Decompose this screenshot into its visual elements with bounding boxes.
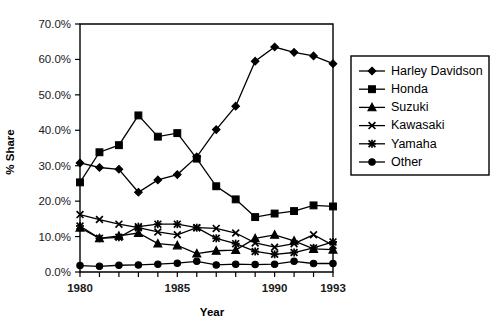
data-point-asterisk-marker — [310, 244, 318, 252]
legend-item-label: Harley Davidson — [391, 64, 483, 78]
y-axis-title: % Share — [4, 129, 16, 174]
data-point-square-marker — [252, 214, 259, 221]
data-point-circle-marker — [135, 262, 141, 268]
data-point-asterisk-marker — [173, 220, 181, 228]
y-tick-label: 10.0% — [38, 231, 71, 243]
data-point-asterisk-marker — [329, 238, 337, 246]
series-honda — [77, 112, 337, 220]
data-point-circle-marker — [116, 262, 122, 268]
chart-series — [76, 43, 337, 269]
data-point-circle-marker — [330, 260, 336, 266]
data-point-square-marker — [174, 130, 181, 137]
data-point-circle-marker — [369, 159, 375, 165]
y-tick-label: 70.0% — [38, 18, 71, 30]
data-point-diamond-marker — [154, 176, 162, 184]
chart-container: 0.0%10.0%20.0%30.0%40.0%50.0%60.0%70.0% … — [0, 0, 497, 325]
x-tick-label: 1985 — [165, 282, 191, 294]
x-tick-label: 1980 — [67, 282, 93, 294]
data-point-square-marker — [330, 203, 337, 210]
data-point-circle-marker — [174, 260, 180, 266]
data-point-square-marker — [135, 112, 142, 119]
motorcycle-market-share-line-chart: 0.0%10.0%20.0%30.0%40.0%50.0%60.0%70.0% … — [0, 0, 497, 325]
y-tick-label: 0.0% — [45, 266, 71, 278]
data-point-asterisk-marker — [134, 223, 142, 231]
data-point-asterisk-marker — [95, 234, 103, 242]
data-point-asterisk-marker — [212, 234, 220, 242]
data-point-asterisk-marker — [193, 224, 201, 232]
data-point-square-marker — [193, 155, 200, 162]
y-tick-label: 30.0% — [38, 160, 71, 172]
x-axis-ticks: 1980198519901993 — [67, 272, 346, 294]
y-axis-ticks: 0.0%10.0%20.0%30.0%40.0%50.0%60.0%70.0% — [38, 18, 80, 278]
legend-item-label: Kawasaki — [391, 118, 445, 132]
series-other — [77, 258, 336, 269]
data-point-square-marker — [271, 210, 278, 217]
data-point-asterisk-marker — [115, 233, 123, 241]
data-point-triangle-marker — [271, 231, 279, 239]
data-point-square-marker — [116, 142, 123, 149]
data-point-square-marker — [291, 208, 298, 215]
x-axis-title: Year — [200, 306, 225, 318]
y-tick-label: 50.0% — [38, 89, 71, 101]
data-point-circle-marker — [271, 261, 277, 267]
data-point-square-marker — [77, 179, 84, 186]
data-point-x-marker — [310, 231, 317, 238]
data-point-circle-marker — [194, 258, 200, 264]
data-point-square-marker — [369, 86, 376, 93]
data-point-asterisk-marker — [368, 140, 376, 148]
data-point-asterisk-marker — [232, 240, 240, 248]
data-point-circle-marker — [96, 263, 102, 269]
data-point-asterisk-marker — [154, 220, 162, 228]
data-point-triangle-marker — [154, 239, 162, 247]
data-point-circle-marker — [252, 261, 258, 267]
data-point-square-marker — [232, 196, 239, 203]
data-point-asterisk-marker — [76, 222, 84, 230]
data-point-circle-marker — [291, 258, 297, 264]
data-point-square-marker — [96, 149, 103, 156]
data-point-square-marker — [154, 133, 161, 140]
y-tick-label: 20.0% — [38, 195, 71, 207]
data-point-asterisk-marker — [271, 250, 279, 258]
x-tick-label: 1993 — [320, 282, 346, 294]
y-tick-label: 60.0% — [38, 53, 71, 65]
data-point-asterisk-marker — [251, 247, 259, 255]
data-point-diamond-marker — [310, 52, 318, 60]
data-point-circle-marker — [310, 260, 316, 266]
data-point-asterisk-marker — [290, 249, 298, 257]
legend-item-label: Honda — [391, 82, 428, 96]
data-point-circle-marker — [77, 262, 83, 268]
x-tick-label: 1990 — [262, 282, 288, 294]
chart-legend: Harley DavidsonHondaSuzukiKawasakiYamaha… — [351, 56, 489, 175]
y-tick-label: 40.0% — [38, 124, 71, 136]
data-point-square-marker — [310, 202, 317, 209]
data-point-diamond-marker — [96, 164, 104, 172]
data-point-circle-marker — [155, 261, 161, 267]
data-point-diamond-marker — [290, 49, 298, 57]
legend-item-label: Suzuki — [391, 100, 429, 114]
data-point-diamond-marker — [329, 60, 337, 68]
data-point-square-marker — [213, 183, 220, 190]
legend-item-label: Other — [391, 155, 422, 169]
legend-item-label: Yamaha — [391, 137, 437, 151]
data-point-circle-marker — [213, 262, 219, 268]
data-point-circle-marker — [232, 261, 238, 267]
